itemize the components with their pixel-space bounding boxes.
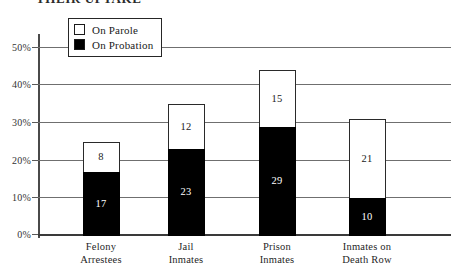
bar-group[interactable]: 2110	[349, 119, 386, 236]
y-tick-mark	[32, 47, 38, 48]
legend-item-on-probation: On Probation	[74, 37, 153, 52]
y-tick-label-40%: 40%	[12, 79, 31, 90]
bar-value-on-parole: 21	[361, 154, 372, 165]
bar-value-on-parole: 12	[180, 122, 191, 133]
plot-area: 0%10%20%30%40%50%817122315292110	[38, 40, 451, 236]
bar-segment-on-probation[interactable]: 10	[349, 198, 386, 236]
bar-segment-on-probation[interactable]: 23	[168, 149, 205, 236]
y-tick-mark	[32, 84, 38, 85]
chart-legend: On Parole On Probation	[68, 18, 162, 57]
gridline-40%: 40%	[38, 84, 451, 85]
y-tick-mark	[32, 160, 38, 161]
y-tick-label-30%: 30%	[12, 116, 31, 127]
legend-label-on-parole: On Parole	[92, 24, 138, 36]
bar-group[interactable]: 1529	[259, 70, 296, 236]
x-label-line-2: Death Row	[312, 253, 422, 266]
bar-segment-on-parole[interactable]: 21	[349, 119, 386, 198]
y-tick-mark	[32, 234, 38, 235]
bar-segment-on-parole[interactable]: 8	[83, 142, 120, 172]
legend-swatch-on-probation	[74, 39, 85, 50]
bar-value-on-parole: 15	[271, 94, 282, 105]
x-label-line-1: Felony	[86, 241, 116, 252]
y-tick-label-10%: 10%	[12, 192, 31, 203]
y-tick-mark	[32, 197, 38, 198]
bar-value-on-probation: 29	[271, 176, 282, 187]
y-tick-label-20%: 20%	[12, 154, 31, 165]
bar-value-on-probation: 23	[180, 187, 191, 198]
bar-value-on-probation: 17	[95, 199, 106, 210]
y-tick-mark	[32, 122, 38, 123]
bar-group[interactable]: 817	[83, 142, 120, 236]
bar-segment-on-probation[interactable]: 17	[83, 172, 120, 236]
bar-segment-on-parole[interactable]: 15	[259, 70, 296, 127]
x-label-line-1: Jail	[178, 241, 193, 252]
stacked-bar-chart: THEIR UPTAKE 0%10%20%30%40%50%8171223152…	[0, 0, 457, 268]
bar-group[interactable]: 1223	[168, 104, 205, 236]
legend-swatch-on-parole	[74, 24, 85, 35]
legend-label-on-probation: On Probation	[92, 39, 153, 51]
y-tick-label-0%: 0%	[17, 229, 31, 240]
bar-value-on-parole: 8	[98, 152, 104, 163]
bar-value-on-probation: 10	[361, 212, 372, 223]
x-axis-label-4: Inmates onDeath Row	[312, 240, 422, 266]
x-label-line-1: Inmates on	[343, 241, 391, 252]
bar-segment-on-probation[interactable]: 29	[259, 127, 296, 236]
x-label-line-1: Prison	[263, 241, 291, 252]
legend-item-on-parole: On Parole	[74, 22, 153, 37]
gridline-30%: 30%	[38, 122, 451, 123]
bar-segment-on-parole[interactable]: 12	[168, 104, 205, 149]
page-title: THEIR UPTAKE	[36, 0, 142, 3]
y-tick-label-50%: 50%	[12, 41, 31, 52]
